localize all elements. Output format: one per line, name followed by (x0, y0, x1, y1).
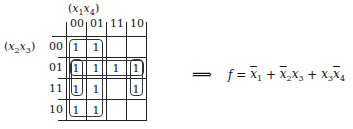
formula-equals: = (236, 68, 246, 82)
kmap-cell (126, 37, 146, 58)
term-1: x1 (250, 67, 262, 83)
term-3: x3x4 (321, 67, 345, 83)
row-header-01: 01 (43, 61, 63, 74)
group-loop-x3-x4-bar-right (130, 59, 143, 96)
col-header-10: 10 (127, 17, 147, 30)
group-loop-x3-x4-bar-left (71, 59, 83, 96)
plus-sign: + (266, 68, 276, 82)
formula-lhs: f (228, 68, 232, 82)
row-header-00: 00 (43, 40, 63, 53)
kmap-cell (126, 100, 146, 121)
kmap-cell (106, 79, 126, 100)
kmap-cell (106, 37, 126, 58)
term-2: x2x3 (280, 67, 304, 83)
column-variables-label: (x1x4) (68, 2, 99, 17)
boolean-formula: f = x1 + x2x3 + x3x4 (228, 67, 345, 83)
col-header-01: 01 (87, 17, 107, 30)
col-header-00: 00 (67, 17, 87, 30)
row-header-10: 10 (43, 103, 63, 116)
kmap-cell (106, 100, 126, 121)
row-header-11: 11 (43, 82, 63, 95)
implies-arrow: ⟹ (192, 66, 212, 82)
col-header-11: 11 (107, 17, 127, 30)
row-variables-label: (x2x3) (4, 40, 35, 55)
plus-sign: + (307, 68, 317, 82)
